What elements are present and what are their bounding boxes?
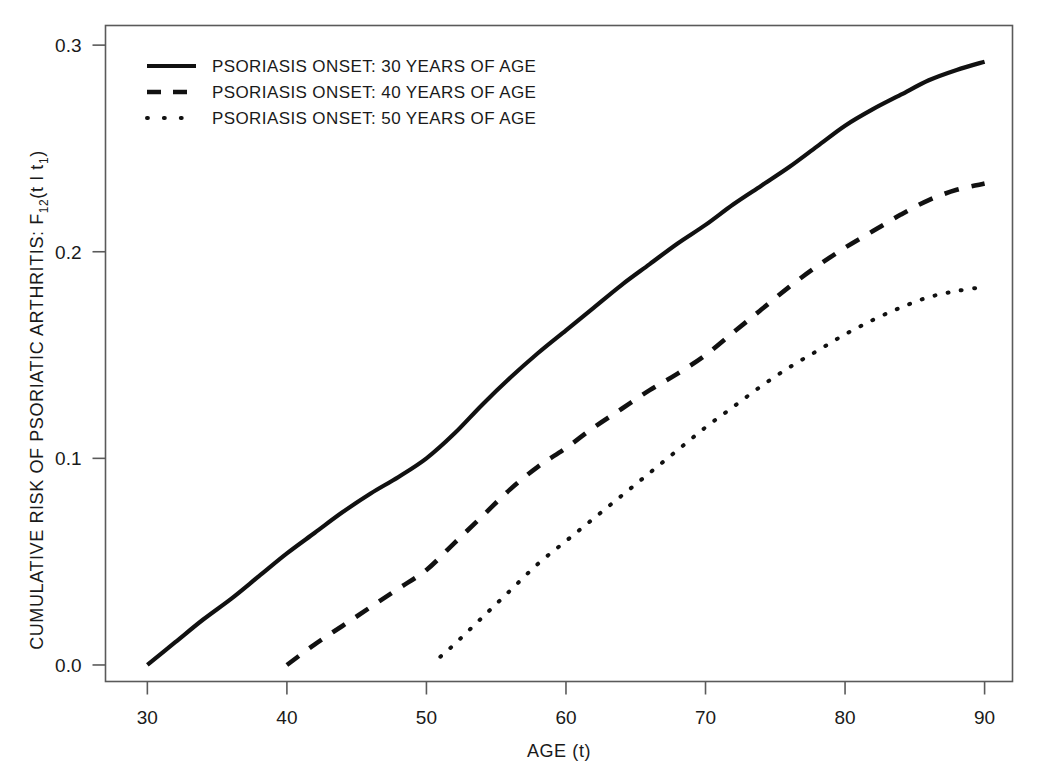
x-tick-label: 70 xyxy=(695,707,716,728)
chart-plot-area: 30405060708090 0.00.10.20.3 PSORIASIS ON… xyxy=(0,0,1055,780)
y-tick-label: 0.1 xyxy=(55,448,81,469)
y-axis-title-tail: ) xyxy=(27,150,47,157)
x-tick-label: 50 xyxy=(416,707,437,728)
x-tick-label: 40 xyxy=(276,707,297,728)
y-axis-tick-labels: 0.00.10.20.3 xyxy=(55,35,81,676)
data-series-line-dotted xyxy=(440,287,984,657)
x-tick-label: 60 xyxy=(555,707,576,728)
x-axis-tick-labels: 30405060708090 xyxy=(137,707,995,728)
x-tick-label: 80 xyxy=(834,707,855,728)
y-axis-title-suffix-subscript: 1 xyxy=(37,157,51,164)
x-axis-ticks xyxy=(147,682,984,695)
data-series-line-dashed xyxy=(287,184,985,665)
y-tick-label: 0.3 xyxy=(55,35,81,56)
legend-label: PSORIASIS ONSET: 40 YEARS OF AGE xyxy=(212,83,536,102)
chart-figure: 30405060708090 0.00.10.20.3 PSORIASIS ON… xyxy=(0,0,1055,780)
y-axis-title: CUMULATIVE RISK OF PSORIATIC ARTHRITIS: … xyxy=(27,150,51,650)
y-axis-title-prefix: CUMULATIVE RISK OF PSORIATIC ARTHRITIS: … xyxy=(27,213,47,650)
x-axis-title: AGE (t) xyxy=(527,741,591,761)
y-axis-ticks xyxy=(93,45,106,665)
data-series-line-solid xyxy=(147,62,984,665)
legend-label: PSORIASIS ONSET: 30 YEARS OF AGE xyxy=(212,57,536,76)
y-axis-title-subscript: 12 xyxy=(37,199,51,214)
y-tick-label: 0.2 xyxy=(55,242,81,263)
data-series-group xyxy=(147,62,984,665)
y-axis-title-suffix: (t I t xyxy=(27,164,47,199)
x-tick-label: 90 xyxy=(974,707,995,728)
x-tick-label: 30 xyxy=(137,707,158,728)
chart-legend: PSORIASIS ONSET: 30 YEARS OF AGEPSORIASI… xyxy=(147,57,536,128)
y-tick-label: 0.0 xyxy=(55,655,81,676)
legend-label: PSORIASIS ONSET: 50 YEARS OF AGE xyxy=(212,109,536,128)
